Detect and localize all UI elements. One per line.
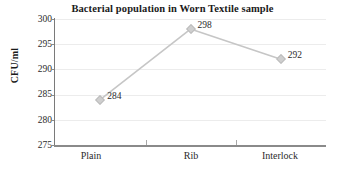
y-tick-label-295: 295 — [20, 40, 52, 50]
plot-area — [55, 19, 326, 145]
data-label-rib: 298 — [198, 20, 212, 30]
gridline-295 — [55, 44, 326, 45]
x-category-label-rib: Rib — [146, 150, 236, 161]
gridline-285 — [55, 95, 326, 96]
data-label-plain: 284 — [107, 91, 121, 101]
y-tick-label-300: 300 — [20, 15, 52, 25]
x-category-label-plain: Plain — [46, 150, 136, 161]
y-tick-label-285: 285 — [20, 90, 52, 100]
y-axis-tick-labels: 300 295 290 285 280 275 — [14, 0, 52, 172]
x-axis-line — [54, 145, 326, 147]
y-tick-label-280: 280 — [20, 116, 52, 126]
y-tick-label-290: 290 — [20, 65, 52, 75]
y-axis-line — [54, 18, 55, 146]
gridline-300 — [55, 19, 326, 20]
x-tick-separator-2 — [236, 140, 237, 145]
data-label-interlock: 292 — [288, 50, 302, 60]
chart-container: Bacterial population in Worn Textile sam… — [0, 0, 345, 172]
x-category-label-interlock: Interlock — [235, 150, 325, 161]
gridline-280 — [55, 120, 326, 121]
x-tick-separator-1 — [146, 140, 147, 145]
gridline-290 — [55, 69, 326, 70]
